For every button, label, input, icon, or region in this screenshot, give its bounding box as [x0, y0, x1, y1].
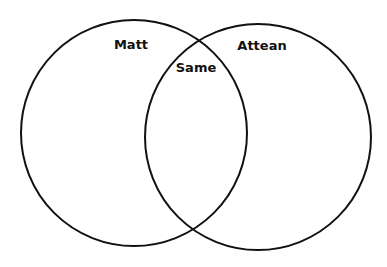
venn-diagram: Matt Attean Same — [0, 0, 387, 267]
venn-canvas: Matt Attean Same — [0, 0, 387, 267]
label-attean: Attean — [237, 38, 286, 53]
label-matt: Matt — [114, 37, 148, 52]
circle-matt — [21, 20, 247, 246]
label-same: Same — [176, 60, 217, 75]
circle-attean — [145, 24, 371, 250]
